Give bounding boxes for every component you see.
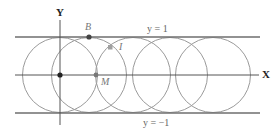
point-b-label: B [85,22,91,32]
point-m [94,73,99,78]
top-line-label: y = 1 [147,24,168,34]
bottom-line-label: y = −1 [143,118,169,128]
x-axis-label: X [262,69,270,80]
point-m-label: M [101,77,109,87]
point-i-label: I [119,42,122,52]
point-b [86,34,91,39]
point-i [108,45,113,50]
y-axis-label: Y [56,7,64,18]
origin-point [57,72,62,77]
diagram-canvas [0,0,276,137]
